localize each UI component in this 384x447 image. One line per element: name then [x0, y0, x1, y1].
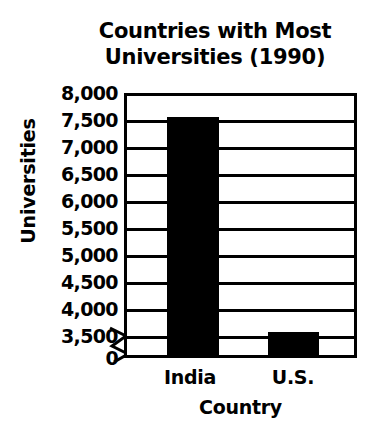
gridline [127, 309, 354, 312]
bar-india[interactable] [167, 117, 219, 355]
gridline [127, 147, 354, 150]
bar-us[interactable] [268, 332, 319, 355]
gridline [127, 120, 354, 123]
y-tick-label: 7,500 [26, 111, 118, 130]
y-tick-label: 5,000 [26, 246, 118, 265]
x-tick-label-us: U.S. [243, 366, 343, 388]
x-axis-title: Country [124, 396, 357, 418]
gridline [127, 336, 354, 339]
y-tick-label: 7,000 [26, 138, 118, 157]
y-tick-label: 4,000 [26, 300, 118, 319]
y-tick-label: 6,000 [26, 192, 118, 211]
y-tick-label-zero: 0 [26, 349, 118, 368]
plot-area [124, 93, 357, 358]
gridline [127, 282, 354, 285]
y-tick-label: 6,500 [26, 165, 118, 184]
y-axis-tick-labels: 8,000 7,500 7,000 6,500 6,000 5,500 5,00… [22, 0, 118, 447]
y-tick-label: 5,500 [26, 219, 118, 238]
gridline [127, 201, 354, 204]
x-tick-label-india: India [140, 366, 240, 388]
gridline [127, 174, 354, 177]
y-tick-label: 8,000 [26, 84, 118, 103]
chart-container: Countries with Most Universities (1990) … [0, 0, 384, 447]
gridline [127, 228, 354, 231]
gridline [127, 255, 354, 258]
y-tick-label: 3,500 [26, 327, 118, 346]
y-tick-label: 4,500 [26, 273, 118, 292]
